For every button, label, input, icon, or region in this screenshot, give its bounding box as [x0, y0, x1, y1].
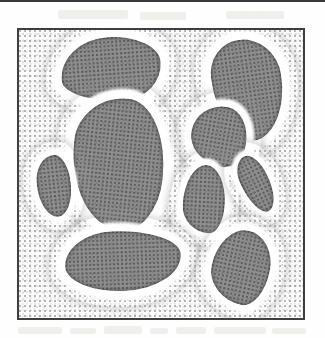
scan-bleed-smudge: [226, 11, 284, 19]
scan-bleed-smudge: [150, 328, 168, 334]
scan-bleed-smudge: [272, 328, 306, 334]
figure-panel-inner: [19, 30, 303, 318]
blob-bottom-dumbbell: [55, 220, 192, 303]
scan-bleed-smudge: [214, 327, 266, 334]
page-top-rule: [0, 0, 325, 2]
figure-frame: [17, 28, 305, 320]
figure-page: [0, 0, 325, 338]
scan-bleed-smudge: [140, 12, 186, 20]
scan-bleed-smudge: [58, 10, 128, 19]
scan-bleed-smudge: [18, 327, 62, 334]
scan-bleed-smudge: [176, 327, 206, 334]
scan-bleed-smudge: [104, 326, 142, 334]
blob-left-teardrop: [26, 146, 82, 227]
scan-bleed-smudge: [70, 328, 96, 334]
